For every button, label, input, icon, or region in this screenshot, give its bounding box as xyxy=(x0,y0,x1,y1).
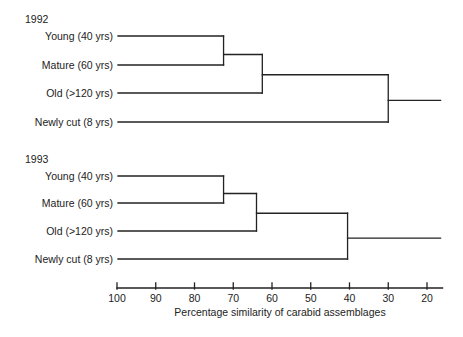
leaf-label: Newly cut (8 yrs) xyxy=(35,253,113,265)
leaf-label: Young (40 yrs) xyxy=(45,170,113,182)
dendrogram-panel-1993: 1993Young (40 yrs)Mature (60 yrs)Old (>1… xyxy=(25,153,441,265)
x-axis-label: Percentage similarity of carabid assembl… xyxy=(174,306,385,318)
x-tick-label: 80 xyxy=(189,292,201,304)
x-tick-label: 100 xyxy=(108,292,126,304)
leaf-label: Mature (60 yrs) xyxy=(42,197,113,209)
leaf-label: Mature (60 yrs) xyxy=(42,59,113,71)
leaf-label: Old (>120 yrs) xyxy=(46,87,113,99)
x-tick-label: 60 xyxy=(266,292,278,304)
panel-year-label: 1992 xyxy=(25,13,49,25)
leaf-label: Old (>120 yrs) xyxy=(46,225,113,237)
dendrogram-panel-1992: 1992Young (40 yrs)Mature (60 yrs)Old (>1… xyxy=(25,13,441,128)
x-tick-label: 70 xyxy=(227,292,239,304)
x-tick-label: 20 xyxy=(421,292,433,304)
dendrogram-chart: 1992Young (40 yrs)Mature (60 yrs)Old (>1… xyxy=(0,0,463,337)
x-axis: 1009080706050403020 xyxy=(108,283,442,304)
leaf-label: Newly cut (8 yrs) xyxy=(35,116,113,128)
leaf-label: Young (40 yrs) xyxy=(45,30,113,42)
x-tick-label: 30 xyxy=(382,292,394,304)
x-tick-label: 90 xyxy=(150,292,162,304)
x-tick-label: 50 xyxy=(305,292,317,304)
x-tick-label: 40 xyxy=(344,292,356,304)
panel-year-label: 1993 xyxy=(25,153,49,165)
